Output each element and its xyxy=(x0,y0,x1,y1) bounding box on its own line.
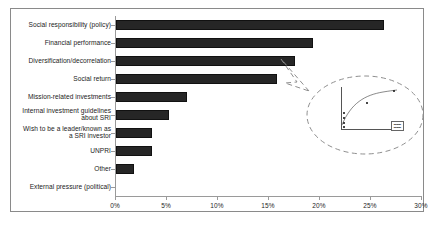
y-tick xyxy=(111,25,115,26)
x-tick-label: 5% xyxy=(161,202,171,209)
x-tick xyxy=(115,196,116,200)
x-tick-label: 0% xyxy=(110,202,120,209)
bar-6 xyxy=(116,110,169,120)
inset-data-point xyxy=(393,90,395,92)
category-label: UNPRI xyxy=(17,147,111,155)
category-label: Wish to be a leader/known as a SRI inves… xyxy=(17,125,111,140)
bar-4 xyxy=(116,74,277,84)
category-label: Financial performance xyxy=(17,39,111,47)
bar-8 xyxy=(116,146,152,156)
bar-1 xyxy=(116,20,384,30)
inset-legend-entry: ▬▬▬ xyxy=(394,126,401,129)
y-tick xyxy=(111,169,115,170)
y-tick xyxy=(111,115,115,116)
inset-data-point xyxy=(343,117,345,119)
inset-data-point xyxy=(343,112,345,114)
x-tick-label: 20% xyxy=(312,202,325,209)
inset-data-point xyxy=(343,122,345,124)
x-tick xyxy=(319,196,320,200)
bar-7 xyxy=(116,128,152,138)
inset-curve xyxy=(342,90,397,125)
bar-3 xyxy=(116,56,295,66)
figure-frame: Social responsibility (policy)Financial … xyxy=(10,8,424,212)
x-tick xyxy=(268,196,269,200)
category-label: External pressure (political) xyxy=(17,183,111,191)
y-tick xyxy=(111,187,115,188)
category-label: Social return xyxy=(17,75,111,83)
inset-data-point xyxy=(343,126,345,128)
bar-rect xyxy=(116,146,152,156)
x-tick-label: 10% xyxy=(210,202,223,209)
bar-rect xyxy=(116,74,277,84)
inset-mini-chart: ▬▬▬ ▬▬▬ xyxy=(327,85,405,139)
category-label: Other xyxy=(17,165,111,173)
x-tick xyxy=(217,196,218,200)
category-label-column: Social responsibility (policy)Financial … xyxy=(15,16,111,196)
y-tick xyxy=(111,43,115,44)
x-tick xyxy=(370,196,371,200)
bar-9 xyxy=(116,164,134,174)
bar-rect xyxy=(116,56,295,66)
y-tick xyxy=(111,97,115,98)
x-tick-label: 15% xyxy=(261,202,274,209)
bar-rect xyxy=(116,92,187,102)
y-tick xyxy=(111,151,115,152)
bar-rect xyxy=(116,38,313,48)
category-label: Mission-related investments xyxy=(17,93,111,101)
bar-rect xyxy=(116,128,152,138)
inset-legend: ▬▬▬ ▬▬▬ xyxy=(391,121,404,131)
y-tick xyxy=(111,79,115,80)
y-tick xyxy=(111,61,115,62)
bar-rect xyxy=(116,110,169,120)
x-tick-label: 25% xyxy=(363,202,376,209)
category-label: Social responsibility (policy) xyxy=(17,21,111,29)
inset-data-point xyxy=(366,102,368,104)
x-tick-label: 30% xyxy=(414,202,427,209)
category-label: Diversification/decorrelation xyxy=(17,57,111,65)
bar-5 xyxy=(116,92,187,102)
bar-rect xyxy=(116,20,384,30)
x-tick xyxy=(166,196,167,200)
bar-rect xyxy=(116,164,134,174)
category-label: Internal investment guidelines about SRI xyxy=(17,107,111,122)
y-tick xyxy=(111,133,115,134)
x-tick xyxy=(421,196,422,200)
bar-2 xyxy=(116,38,313,48)
